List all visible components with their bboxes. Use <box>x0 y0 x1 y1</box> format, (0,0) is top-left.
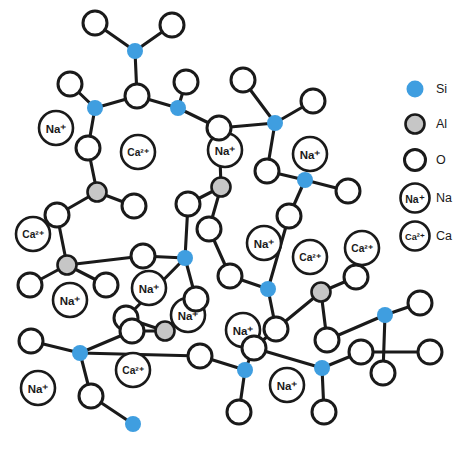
atom-o <box>312 400 336 424</box>
atom-o <box>122 194 146 218</box>
atom-si <box>377 307 393 323</box>
modifier-ion-label: Na⁺ <box>46 123 67 135</box>
atom-o <box>242 336 266 360</box>
atom-o <box>371 361 395 385</box>
atom-o <box>218 264 242 288</box>
atom-o <box>227 400 251 424</box>
modifier-ion-label: Ca²⁺ <box>299 252 320 263</box>
atom-o <box>19 329 43 353</box>
modifier-ion-label: Na⁺ <box>215 145 236 157</box>
atom-si <box>87 100 103 116</box>
atom-o <box>18 273 42 297</box>
atom-al <box>156 322 175 341</box>
legend-label-o: O <box>436 153 446 167</box>
atom-o <box>79 384 103 408</box>
atom-si <box>237 362 253 378</box>
modifier-ion-label: Na⁺ <box>277 380 298 392</box>
modifier-ion-label: Na⁺ <box>28 383 49 395</box>
atom-al <box>88 183 107 202</box>
atom-o <box>264 317 288 341</box>
atom-o <box>125 84 149 108</box>
legend-label-al: Al <box>436 117 447 131</box>
atom-o <box>418 340 442 364</box>
legend-symbol-label-na: Na⁺ <box>405 193 424 205</box>
atom-o <box>76 136 100 160</box>
atom-o <box>160 13 184 37</box>
atom-o <box>188 344 212 368</box>
atom-si <box>125 416 141 432</box>
atom-o <box>174 70 198 94</box>
atom-si <box>72 345 88 361</box>
legend-label-si: Si <box>436 82 447 96</box>
atom-al <box>212 178 231 197</box>
atom-si <box>170 100 186 116</box>
network-structure-diagram: Na⁺Ca²⁺Na⁺Na⁺Ca²⁺Na⁺Na⁺Ca²⁺Ca²⁺Na⁺Na⁺Na⁺… <box>0 0 473 450</box>
atom-si <box>260 281 276 297</box>
modifier-ion-na: Na⁺ <box>53 283 87 317</box>
atom-o <box>408 291 432 315</box>
atom-si <box>267 115 283 131</box>
atom-o <box>131 244 155 268</box>
modifier-ion-ca: Ca²⁺ <box>293 240 327 274</box>
legend-label-na: Na <box>436 191 452 205</box>
atom-o <box>336 179 360 203</box>
modifier-ion-na: Na⁺ <box>247 226 281 260</box>
modifier-ion-label: Na⁺ <box>254 238 275 250</box>
modifier-ion-ca: Ca²⁺ <box>16 217 50 251</box>
diagram-background <box>0 0 473 450</box>
atom-o <box>255 159 279 183</box>
legend-symbol-label-ca: Ca²⁺ <box>405 232 425 242</box>
legend-label-ca: Ca <box>436 229 452 243</box>
atom-o <box>277 204 301 228</box>
atom-o <box>207 116 231 140</box>
atom-o <box>94 273 118 297</box>
atom-o <box>344 265 368 289</box>
modifier-ion-na: Na⁺ <box>21 371 55 405</box>
modifier-ion-label: Ca²⁺ <box>22 229 43 240</box>
modifier-ion-na: Na⁺ <box>39 111 73 145</box>
atom-o <box>231 68 255 92</box>
modifier-ion-label: Na⁺ <box>139 283 160 295</box>
modifier-ion-label: Ca²⁺ <box>122 365 143 376</box>
modifier-ion-ca: Ca²⁺ <box>121 135 155 169</box>
modifier-ion-ca: Ca²⁺ <box>345 231 379 265</box>
atom-o <box>197 217 221 241</box>
modifier-ion-na: Na⁺ <box>270 368 304 402</box>
modifier-ion-na: Na⁺ <box>293 137 327 171</box>
atom-si <box>177 250 193 266</box>
modifier-ion-label: Ca²⁺ <box>351 243 372 254</box>
atom-o <box>120 319 144 343</box>
modifier-ion-na: Na⁺ <box>132 271 166 305</box>
atom-al <box>312 283 331 302</box>
atom-si <box>314 360 330 376</box>
atom-o <box>176 192 200 216</box>
atom-o <box>301 89 325 113</box>
atom-o <box>83 11 107 35</box>
atom-o <box>58 72 82 96</box>
atom-o <box>45 203 69 227</box>
modifier-ion-ca: Ca²⁺ <box>116 353 150 387</box>
atom-o <box>349 340 373 364</box>
atom-al <box>58 256 77 275</box>
modifier-ion-label: Na⁺ <box>233 325 254 337</box>
modifier-ion-label: Na⁺ <box>60 295 81 307</box>
atom-o <box>315 328 339 352</box>
modifier-ion-label: Na⁺ <box>300 149 321 161</box>
atom-si <box>127 43 143 59</box>
modifier-ion-label: Ca²⁺ <box>127 147 148 158</box>
atom-si <box>297 172 313 188</box>
atom-o <box>184 287 208 311</box>
